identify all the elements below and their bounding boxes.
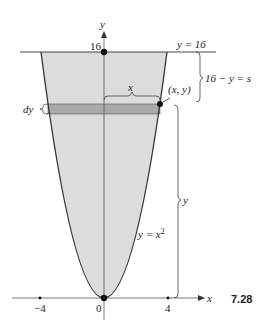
point-origin [101, 295, 107, 301]
top-line-label: y = 16 [176, 38, 206, 50]
strip-halfwidth-label: x [127, 81, 133, 93]
y-axis-label: y [99, 18, 105, 30]
dy-brace [40, 104, 48, 114]
lower-brace-label: y [182, 194, 188, 206]
x-tick-4: 4 [165, 302, 171, 314]
point-label: (x, y) [168, 83, 191, 96]
x-axis-label: x [206, 292, 212, 304]
x-tick-0: 0 [96, 302, 102, 314]
strip-height-label: dy [23, 103, 34, 115]
x-axis-arrow-icon [198, 295, 205, 301]
curve-label: y = x2 [137, 227, 165, 240]
parabola-region-diagram: y x 16 −4 0 4 y = 16 (x, y) x dy 16 − y … [0, 0, 265, 335]
y-tick-16: 16 [90, 40, 102, 52]
figure-number: 7.28 [231, 293, 252, 305]
upper-brace [196, 52, 203, 102]
point-pointer [163, 98, 170, 102]
tick-dot-4 [167, 297, 170, 300]
x-tick-neg4: −4 [34, 302, 46, 314]
y-axis-arrow-icon [101, 31, 107, 38]
point-x-y [157, 101, 163, 107]
upper-brace-label: 16 − y = s [205, 72, 251, 84]
lower-brace [174, 105, 181, 298]
tick-dot-neg4 [39, 297, 42, 300]
point-0-16 [101, 49, 107, 55]
